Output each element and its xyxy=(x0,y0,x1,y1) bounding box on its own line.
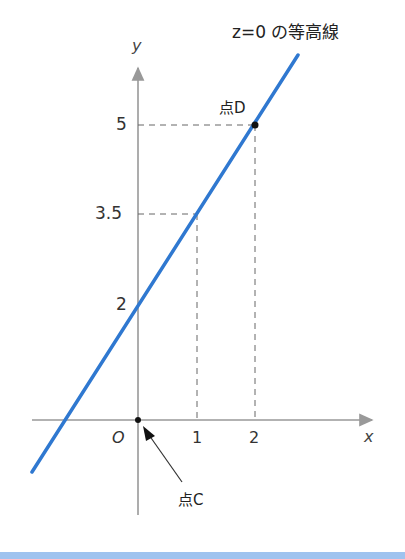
diagram-title: z=0 の等高線 xyxy=(232,18,339,43)
x-axis-label: x xyxy=(364,427,373,446)
y-tick-2: 2 xyxy=(116,294,127,314)
point-d-label: 点D xyxy=(219,96,246,117)
point-d xyxy=(252,122,259,129)
y-axis-label: y xyxy=(132,36,141,55)
bottom-band xyxy=(0,552,405,559)
contour-line xyxy=(32,55,298,472)
x-tick-2: 2 xyxy=(249,428,259,447)
point-c-label: 点C xyxy=(178,488,203,509)
point-c xyxy=(135,417,141,423)
y-tick-3-5: 3.5 xyxy=(95,203,122,223)
guide-lines xyxy=(138,125,255,420)
contour-diagram xyxy=(0,0,405,559)
y-tick-5: 5 xyxy=(116,114,127,134)
point-c-arrow xyxy=(143,426,182,482)
origin-label: O xyxy=(112,428,125,447)
x-tick-1: 1 xyxy=(192,428,202,447)
